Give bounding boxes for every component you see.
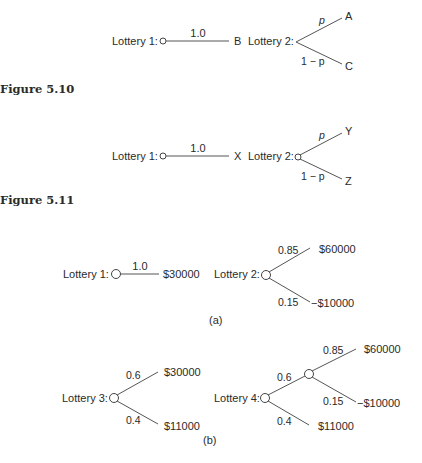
figure-panel-a: Lottery 1: 1.0 $30000 Lottery 2: 0.85 0.… xyxy=(63,243,356,326)
sub-lower-outcome: −$10000 xyxy=(357,397,400,409)
upper-prob: 0.6 xyxy=(277,371,292,383)
upper-outcome: A xyxy=(345,10,353,22)
upper-prob: p xyxy=(318,129,325,141)
upper-prob: 0.85 xyxy=(278,244,299,256)
lottery1-outcome: X xyxy=(234,150,242,162)
lottery1-label: Lottery 1: xyxy=(63,268,109,280)
upper-outcome: $30000 xyxy=(164,366,201,378)
figure-5-10: Lottery 1: 1.0 B Lottery 2: p 1 − p A C … xyxy=(0,10,353,96)
upper-outcome: $60000 xyxy=(319,243,356,255)
lottery1-outcome: B xyxy=(234,35,241,47)
lower-prob: 0.4 xyxy=(126,414,141,426)
lottery3-label: Lottery 3: xyxy=(62,392,108,404)
upper-prob: 0.6 xyxy=(126,369,141,381)
lower-outcome: $11000 xyxy=(164,420,200,432)
lottery2-label: Lottery 2: xyxy=(248,35,294,47)
figure-panel-b: Lottery 3: 0.6 0.4 $30000 $11000 Lottery… xyxy=(62,343,401,446)
lottery4-label: Lottery 4: xyxy=(214,392,260,404)
lower-outcome: −$10000 xyxy=(311,297,354,309)
panel-sublabel: (b) xyxy=(203,434,216,446)
lottery2-label: Lottery 2: xyxy=(214,268,260,280)
lower-outcome: C xyxy=(345,60,353,72)
panel-sublabel: (a) xyxy=(209,314,222,326)
figure-5-11: Lottery 1: 1.0 X Lottery 2: p 1 − p Y Z … xyxy=(0,125,353,207)
figure-caption: Figure 5.10 xyxy=(0,82,74,96)
chance-node xyxy=(160,38,166,44)
lottery2-label: Lottery 2: xyxy=(248,150,294,162)
upper-outcome: Y xyxy=(345,125,353,137)
lottery1-label: Lottery 1: xyxy=(112,150,158,162)
upper-prob: p xyxy=(318,14,325,26)
figure-caption: Figure 5.11 xyxy=(0,193,74,207)
lottery1-prob: 1.0 xyxy=(190,142,205,154)
lottery1-prob: 1.0 xyxy=(190,27,205,39)
sub-upper-prob: 0.85 xyxy=(323,344,344,356)
lower-outcome: Z xyxy=(345,175,352,187)
lower-prob: 0.15 xyxy=(278,296,299,308)
lottery-diagrams: Lottery 1: 1.0 B Lottery 2: p 1 − p A C … xyxy=(0,0,422,463)
lower-outcome: $11000 xyxy=(318,420,354,432)
lottery1-label: Lottery 1: xyxy=(112,35,158,47)
sub-lower-prob: 0.15 xyxy=(323,395,344,407)
sub-upper-outcome: $60000 xyxy=(364,343,401,355)
chance-node xyxy=(160,153,166,159)
lower-prob: 1 − p xyxy=(301,55,325,67)
lower-prob: 1 − p xyxy=(301,170,325,182)
lottery1-outcome: $30000 xyxy=(163,268,200,280)
chance-node xyxy=(112,270,121,279)
lottery1-prob: 1.0 xyxy=(132,260,147,272)
lower-prob: 0.4 xyxy=(277,415,292,427)
